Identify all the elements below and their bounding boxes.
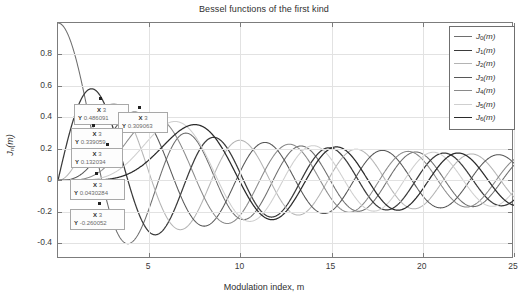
- legend-label-J1: J1(m): [476, 46, 495, 55]
- legend-item-J4[interactable]: J4(m): [454, 84, 510, 98]
- data-tip-y-row: Y -0.260052: [74, 219, 121, 227]
- figure-canvas: Bessel functions of the first kind 51015…: [0, 0, 528, 305]
- x-axis-title: Modulation index, m: [0, 282, 528, 292]
- y-tick: [58, 180, 62, 181]
- y-tick-label: 0.2: [12, 143, 52, 153]
- chart-title: Bessel functions of the first kind: [0, 4, 528, 14]
- legend-label-J0: J0(m): [476, 32, 495, 41]
- y-tick: [58, 86, 62, 87]
- data-tip-x-row: X 3: [122, 114, 164, 122]
- legend-item-J2[interactable]: J2(m): [454, 57, 510, 71]
- gridline-horizontal: [58, 54, 512, 55]
- gridline-horizontal: [58, 212, 512, 213]
- gridline-horizontal: [58, 86, 512, 87]
- data-tip[interactable]: X 3Y 0.0430284: [70, 179, 125, 200]
- gridline-vertical: [332, 23, 333, 257]
- legend-item-J0[interactable]: J0(m): [454, 30, 510, 44]
- legend-box[interactable]: J0(m)J1(m)J2(m)J3(m)J4(m)J5(m)J6(m): [449, 26, 515, 130]
- y-tick-label: 0.8: [12, 48, 52, 58]
- legend-item-J6[interactable]: J6(m): [454, 111, 510, 125]
- legend-label-J6: J6(m): [476, 113, 495, 122]
- curves-layer: [58, 23, 514, 259]
- y-tick-right: [508, 243, 512, 244]
- gridline-horizontal: [58, 149, 512, 150]
- gridline-vertical: [423, 23, 424, 257]
- y-tick: [58, 117, 62, 118]
- x-tick-top: [332, 23, 333, 27]
- y-tick: [58, 212, 62, 213]
- x-tick-top: [240, 23, 241, 27]
- x-tick-label: 25: [508, 261, 517, 271]
- legend-swatch-J5: [454, 104, 472, 105]
- legend-label-J2: J2(m): [476, 59, 495, 68]
- data-tip[interactable]: X 3Y 0.309063: [118, 112, 168, 133]
- x-tick: [240, 253, 241, 257]
- data-tip-marker: [99, 97, 102, 100]
- data-tip-x-row: X 3: [75, 130, 119, 138]
- x-tick-top: [149, 23, 150, 27]
- y-axis-title: Jn(m): [5, 115, 15, 175]
- data-tip-marker: [138, 106, 141, 109]
- x-tick-top: [423, 23, 424, 27]
- legend-swatch-J1: [454, 50, 472, 51]
- legend-label-J5: J5(m): [476, 100, 495, 109]
- legend-swatch-J2: [454, 63, 472, 64]
- data-tip[interactable]: X 3Y 0.132034: [71, 148, 123, 168]
- legend-label-J3: J3(m): [476, 73, 495, 82]
- gridline-horizontal: [58, 243, 512, 244]
- y-axis-title-arg: (m): [5, 134, 15, 148]
- y-axis-title-base: J: [5, 151, 15, 156]
- x-tick-label: 10: [235, 261, 244, 271]
- data-tip[interactable]: X 3Y 0.339059: [71, 128, 123, 149]
- gridline-vertical: [240, 23, 241, 257]
- data-tip-y-row: Y 0.309063: [122, 122, 164, 130]
- legend-item-J1[interactable]: J1(m): [454, 44, 510, 58]
- x-tick: [149, 253, 150, 257]
- data-tip-marker: [92, 124, 95, 127]
- data-tip-y-row: Y 0.132034: [75, 158, 119, 166]
- legend-swatch-J0: [454, 36, 472, 37]
- legend-item-J3[interactable]: J3(m): [454, 71, 510, 85]
- gridline-vertical: [149, 23, 150, 257]
- data-tip-x-row: X 3: [75, 150, 119, 158]
- series-line-J0: [58, 23, 514, 244]
- y-tick-right: [508, 180, 512, 181]
- data-tip-marker: [106, 143, 109, 146]
- y-tick: [58, 54, 62, 55]
- legend-label-J4: J4(m): [476, 86, 495, 95]
- y-tick: [58, 149, 62, 150]
- gridline-horizontal: [58, 180, 512, 181]
- y-tick-right: [508, 149, 512, 150]
- legend-swatch-J6: [454, 117, 472, 118]
- data-tip-marker: [95, 172, 98, 175]
- y-axis-title-sub: n: [9, 148, 15, 151]
- legend-item-J5[interactable]: J5(m): [454, 98, 510, 112]
- y-tick-label: 0: [12, 174, 52, 184]
- x-tick-label: 5: [146, 261, 151, 271]
- data-tip-x-row: X 3: [74, 211, 121, 219]
- data-tip[interactable]: X 3Y -0.260052: [70, 209, 125, 230]
- data-tip-marker: [98, 202, 101, 205]
- x-tick-label: 15: [326, 261, 335, 271]
- y-tick-label: -0.2: [12, 206, 52, 216]
- x-tick: [332, 253, 333, 257]
- plot-axes: [57, 22, 513, 258]
- x-tick: [514, 253, 515, 257]
- y-tick-label: 0.6: [12, 80, 52, 90]
- data-tip-y-row: Y 0.0430284: [74, 189, 121, 197]
- x-tick-label: 20: [417, 261, 426, 271]
- x-tick: [423, 253, 424, 257]
- y-tick-label: 0.4: [12, 111, 52, 121]
- data-tip-y-row: Y 0.339059: [75, 138, 119, 146]
- y-tick-label: -0.4: [12, 237, 52, 247]
- legend-swatch-J3: [454, 77, 472, 78]
- legend-swatch-J4: [454, 90, 472, 91]
- data-tip-x-row: X 3: [74, 181, 121, 189]
- y-tick-right: [508, 212, 512, 213]
- y-tick: [58, 243, 62, 244]
